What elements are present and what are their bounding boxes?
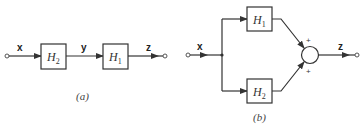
caption-b: (b) [253,111,266,124]
input-terminal-b [186,53,190,57]
input-label-x-a: x [17,42,23,53]
summing-junction [302,47,319,64]
output-label-z-a: z [146,42,151,53]
output-terminal-a [163,54,167,58]
plus-sign-upper: + [306,36,311,45]
input-terminal-a [5,54,9,58]
panel-b-parallel: x H1 H2 + + z (b) [186,7,359,124]
caption-a: (a) [76,90,89,103]
upper-to-summer-line [272,19,304,48]
panel-a-cascade: x H2 y H1 z (a) [5,42,167,103]
block-diagram: x H2 y H1 z (a) x H1 H2 + + [0,0,362,128]
plus-sign-lower: + [306,67,311,76]
input-label-x-b: x [197,41,203,52]
lower-to-summer-line [272,62,304,91]
output-terminal-b [355,53,359,57]
intermediate-label-y-a: y [81,42,87,53]
output-label-z-b: z [338,41,343,52]
